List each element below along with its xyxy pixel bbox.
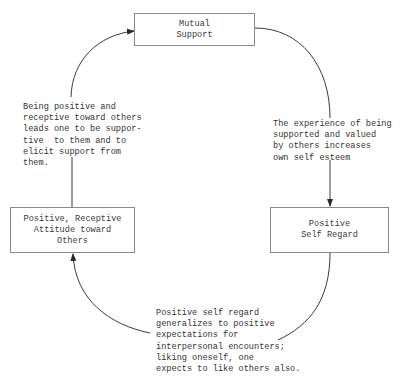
arrow-selfregard-to-attitude-tail: [73, 254, 150, 333]
node-positive-self-regard-label: Positive Self Regard: [301, 219, 358, 241]
node-mutual-support-label: Mutual Support: [176, 19, 212, 41]
node-mutual-support: Mutual Support: [134, 13, 255, 46]
node-positive-receptive-attitude-label: Positive, Receptive Attitude toward Othe…: [24, 214, 122, 247]
arrow-support-to-selfregard-arc: [255, 28, 330, 118]
node-positive-receptive-attitude: Positive, Receptive Attitude toward Othe…: [10, 207, 135, 253]
annotation-selfregard-to-attitude: Positive self regard generalizes to posi…: [156, 308, 300, 375]
annotation-attitude-to-support: Being positive and receptive toward othe…: [23, 102, 142, 169]
annotation-support-to-selfregard: The experience of being supported and va…: [273, 119, 392, 164]
arrow-attitude-to-support-arc: [71, 31, 134, 97]
node-positive-self-regard: Positive Self Regard: [270, 207, 389, 253]
